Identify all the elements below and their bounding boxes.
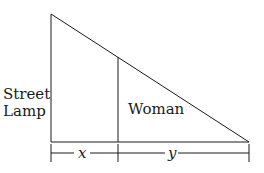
- similar-triangles-diagram: Street Lamp Woman x y: [0, 0, 264, 173]
- street-lamp-label-1: Street: [3, 85, 50, 103]
- woman-label: Woman: [128, 100, 185, 118]
- street-lamp-label-2: Lamp: [3, 102, 46, 120]
- y-label: y: [167, 144, 177, 162]
- x-label: x: [78, 144, 87, 162]
- shadow-hypotenuse: [51, 14, 249, 142]
